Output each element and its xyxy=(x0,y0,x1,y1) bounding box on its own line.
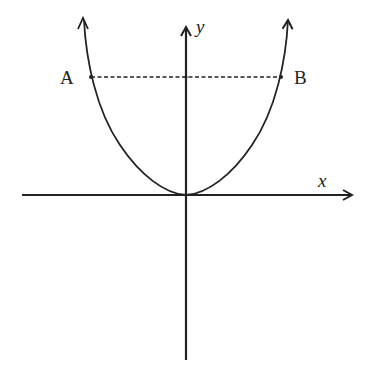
graph-svg xyxy=(0,0,369,380)
point-a-label: A xyxy=(60,67,74,89)
curve-left-arrow xyxy=(78,18,88,29)
x-axis-label: x xyxy=(318,170,326,192)
point-b-label: B xyxy=(294,67,307,89)
chord-yaxis-dot xyxy=(184,75,187,78)
point-b-dot xyxy=(279,75,283,79)
diagram-canvas: y x A B xyxy=(0,0,369,380)
y-axis-label: y xyxy=(196,16,204,38)
point-a-dot xyxy=(89,75,93,79)
